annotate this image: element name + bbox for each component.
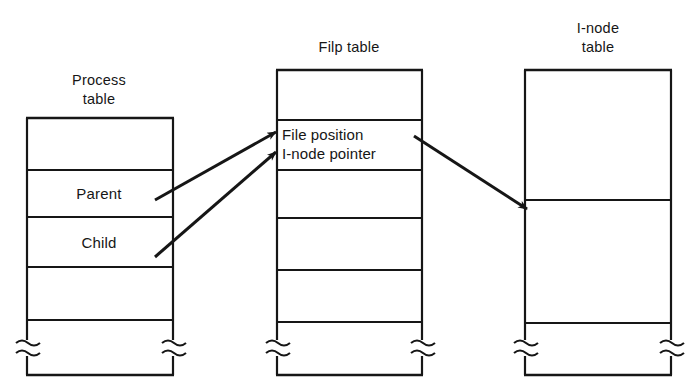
figure-root: Process table Filp table I-node table Pa… — [0, 0, 691, 386]
process-break-right — [162, 341, 186, 356]
filp-break-left — [266, 341, 290, 356]
arrow-filp-to-inode — [414, 136, 527, 209]
inode-break-right — [660, 341, 684, 356]
inode-break-left — [514, 341, 538, 356]
inode-table — [514, 70, 684, 375]
diagram-linework — [0, 0, 691, 386]
process-table — [16, 118, 186, 375]
process-break-left — [16, 341, 40, 356]
filp-table — [266, 70, 435, 375]
filp-break-right — [411, 341, 435, 356]
